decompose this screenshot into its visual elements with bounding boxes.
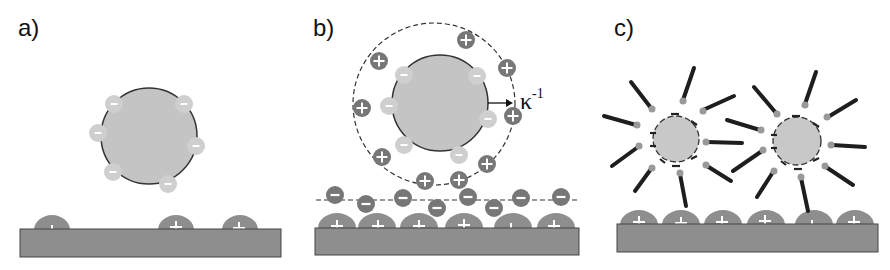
- particle-a: [89, 88, 205, 193]
- substrate-b: [315, 228, 579, 255]
- substrate-a: [20, 229, 281, 257]
- substrate-c: [617, 224, 878, 252]
- panel-a: [20, 88, 281, 257]
- negative-ion-layer: [326, 186, 570, 217]
- panel-c: [604, 68, 878, 252]
- particle-c-left: [604, 68, 742, 206]
- kappa-exponent: -1: [532, 86, 544, 101]
- panel-b: [315, 23, 579, 255]
- debye-length-label: κ-1: [520, 88, 544, 115]
- diagram-canvas: [0, 0, 890, 270]
- particle-b: [380, 55, 497, 164]
- particle-c-right: [727, 72, 865, 211]
- debye-length-arrow: [488, 99, 513, 107]
- kappa-symbol: κ: [520, 88, 532, 114]
